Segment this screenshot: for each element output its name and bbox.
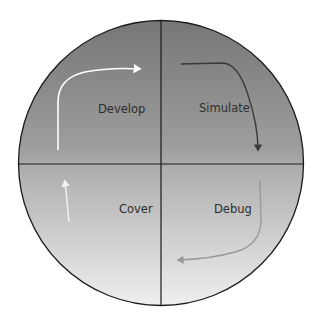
quadrant-label-cover: Cover <box>119 202 153 216</box>
quadrant-label-debug: Debug <box>214 202 252 216</box>
quadrant-label-simulate: Simulate <box>199 101 250 115</box>
quadrant-label-develop: Develop <box>98 102 145 116</box>
cycle-diagram: Develop Simulate Debug Cover <box>0 0 318 327</box>
